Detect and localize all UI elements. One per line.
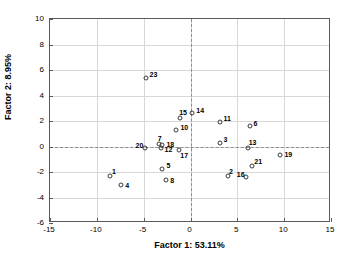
data-point-marker <box>217 140 222 145</box>
y-tick-label: -6 <box>37 218 44 227</box>
tick-x <box>144 218 145 222</box>
data-point-marker <box>190 111 195 116</box>
tick-x <box>331 218 332 222</box>
data-point-label: 4 <box>125 182 129 189</box>
data-point-marker <box>217 120 222 125</box>
gridline-horizontal <box>50 70 329 71</box>
tick-y <box>49 19 53 20</box>
tick-y <box>49 70 53 71</box>
tick-x <box>97 218 98 222</box>
x-tick-label: 15 <box>326 225 335 234</box>
data-point-label: 5 <box>166 162 170 169</box>
tick-y <box>49 198 53 199</box>
data-point-label: 13 <box>249 139 257 146</box>
x-tick-label: -15 <box>43 225 55 234</box>
y-tick-label: -2 <box>37 167 44 176</box>
y-tick-label: 10 <box>35 14 44 23</box>
data-point-marker <box>119 182 124 187</box>
gridline-vertical <box>144 19 145 221</box>
gridline-horizontal <box>50 45 329 46</box>
x-tick-label: -5 <box>139 225 146 234</box>
tick-x <box>284 218 285 222</box>
data-point-label: 20 <box>136 142 144 149</box>
gridline-horizontal <box>50 96 329 97</box>
data-point-label: 19 <box>284 151 292 158</box>
tick-y <box>49 172 53 173</box>
gridline-vertical <box>284 19 285 221</box>
y-tick-label: 2 <box>40 116 44 125</box>
tick-y <box>49 96 53 97</box>
data-point-label: 14 <box>196 107 204 114</box>
data-point-label: 3 <box>224 136 228 143</box>
x-axis-title: Factor 1: 53.11% <box>49 240 330 250</box>
gridline-horizontal <box>50 172 329 173</box>
data-point-label: 10 <box>180 124 188 131</box>
data-point-label: 23 <box>150 71 158 78</box>
tick-y <box>49 121 53 122</box>
data-point-label: 21 <box>254 158 262 165</box>
tick-y <box>49 147 53 148</box>
x-tick-label: 5 <box>234 225 238 234</box>
gridline-horizontal <box>50 121 329 122</box>
data-point-label: 7 <box>158 135 162 142</box>
y-tick-label: -4 <box>37 192 44 201</box>
data-point-marker <box>178 116 183 121</box>
tick-x <box>237 218 238 222</box>
data-point-label: 18 <box>166 141 174 148</box>
gridline-vertical <box>97 19 98 221</box>
x-tick-label: 10 <box>279 225 288 234</box>
y-tick-label: 4 <box>40 90 44 99</box>
y-tick-label: 0 <box>40 141 44 150</box>
data-point-marker <box>245 145 250 150</box>
plot-area: 1234567810111213141516171819202123 <box>49 18 330 222</box>
data-point-label: 16 <box>237 171 245 178</box>
data-point-marker <box>160 143 165 148</box>
y-axis-title: Factor 2: 8.95% <box>3 54 13 120</box>
data-point-marker <box>143 75 148 80</box>
x-tick-label: -10 <box>90 225 102 234</box>
gridline-vertical <box>237 19 238 221</box>
data-point-marker <box>278 153 283 158</box>
y-tick-label: 8 <box>40 39 44 48</box>
zero-line-horizontal <box>50 147 329 148</box>
tick-y <box>49 45 53 46</box>
tick-x <box>50 218 51 222</box>
data-point-marker <box>174 127 179 132</box>
data-point-label: 6 <box>254 120 258 127</box>
gridline-horizontal <box>50 198 329 199</box>
tick-y <box>49 223 53 224</box>
zero-line-vertical <box>191 19 192 221</box>
y-tick-label: 6 <box>40 65 44 74</box>
data-point-label: 17 <box>180 152 188 159</box>
data-point-label: 2 <box>229 168 233 175</box>
data-point-label: 8 <box>170 177 174 184</box>
x-tick-label: 0 <box>187 225 191 234</box>
data-point-label: 11 <box>224 115 231 122</box>
tick-x <box>191 218 192 222</box>
data-point-marker <box>247 124 252 129</box>
scatter-plot-figure: 1234567810111213141516171819202123 -15-1… <box>0 0 349 263</box>
data-point-marker <box>164 177 169 182</box>
data-point-label: 15 <box>179 109 187 116</box>
data-point-marker <box>160 167 165 172</box>
data-point-label: 1 <box>112 168 116 175</box>
